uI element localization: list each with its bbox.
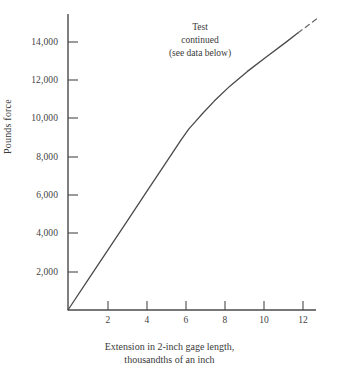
x-axis-label-line1: Extension in 2-inch gage length, <box>0 340 339 353</box>
y-tick-label-10000: 10,000 <box>14 113 58 123</box>
x-tick-label-10: 10 <box>259 315 269 325</box>
y-axis-label: Pounds force <box>2 138 13 154</box>
x-tick-label-4: 4 <box>145 315 150 325</box>
annotation-line3: (see data below) <box>140 47 260 60</box>
y-tick-label-8000: 8,000 <box>18 152 58 162</box>
test-continued-annotation: Test continued (see data below) <box>140 21 260 60</box>
curve-dashed-continuation <box>298 17 319 33</box>
y-axis-ticks <box>68 42 78 272</box>
y-tick-label-12000: 12,000 <box>14 75 58 85</box>
annotation-line2: continued <box>140 34 260 47</box>
x-tick-label-12: 12 <box>298 315 308 325</box>
x-axis-label: Extension in 2-inch gage length, thousan… <box>0 340 339 366</box>
annotation-line1: Test <box>140 21 260 34</box>
y-tick-label-14000: 14,000 <box>14 37 58 47</box>
y-tick-label-2000: 2,000 <box>18 267 58 277</box>
stress-strain-chart-figure: 2,000 4,000 6,000 8,000 10,000 12,000 14… <box>0 0 339 375</box>
x-tick-label-2: 2 <box>106 315 111 325</box>
load-extension-curve <box>68 33 298 310</box>
x-axis-ticks <box>108 301 303 310</box>
x-tick-label-8: 8 <box>223 315 228 325</box>
y-tick-label-4000: 4,000 <box>18 228 58 238</box>
y-tick-label-6000: 6,000 <box>18 190 58 200</box>
x-tick-label-6: 6 <box>184 315 189 325</box>
x-axis-label-line2: thousandths of an inch <box>0 353 339 366</box>
